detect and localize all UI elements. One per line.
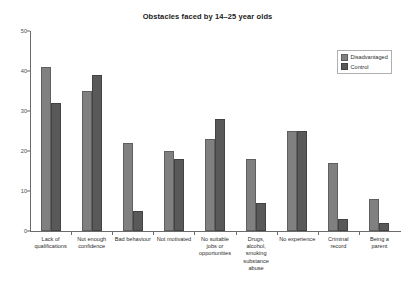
x-axis-category-label: Being a parent bbox=[352, 236, 407, 250]
bar-control bbox=[297, 131, 307, 231]
bar-control bbox=[51, 103, 61, 231]
x-axis-tick-mark bbox=[318, 231, 319, 235]
bar-control bbox=[174, 159, 184, 231]
chart-legend: DisadvantagedControl bbox=[337, 50, 392, 74]
bar-control bbox=[215, 119, 225, 231]
bar-disadvantaged bbox=[328, 163, 338, 231]
legend-label: Control bbox=[351, 64, 369, 70]
x-axis-tick-mark bbox=[277, 231, 278, 235]
y-axis-tick-mark bbox=[27, 31, 30, 32]
x-axis-tick-mark bbox=[236, 231, 237, 235]
bar-control bbox=[379, 223, 389, 231]
x-axis-tick-mark bbox=[112, 231, 113, 235]
x-axis-tick-mark bbox=[153, 231, 154, 235]
bar-control bbox=[133, 211, 143, 231]
bar-disadvantaged bbox=[164, 151, 174, 231]
x-axis-tick-mark bbox=[359, 231, 360, 235]
bar-chart: Obstacles faced by 14–25 year olds 01020… bbox=[0, 0, 415, 292]
legend-item[interactable]: Control bbox=[341, 63, 388, 70]
x-axis-tick-mark bbox=[194, 231, 195, 235]
x-axis-tick-mark bbox=[71, 231, 72, 235]
legend-swatch-icon bbox=[341, 54, 348, 61]
bar-disadvantaged bbox=[246, 159, 256, 231]
bar-group bbox=[194, 119, 235, 231]
bar-disadvantaged bbox=[123, 143, 133, 231]
legend-label: Disadvantaged bbox=[351, 54, 388, 60]
bar-group bbox=[71, 75, 112, 231]
bar-group bbox=[318, 163, 359, 231]
bar-disadvantaged bbox=[205, 139, 215, 231]
bar-control bbox=[92, 75, 102, 231]
bar-group bbox=[112, 143, 153, 231]
chart-title: Obstacles faced by 14–25 year olds bbox=[0, 12, 415, 21]
bar-disadvantaged bbox=[41, 67, 51, 231]
bar-control bbox=[256, 203, 266, 231]
bar-group bbox=[236, 159, 277, 231]
legend-swatch-icon bbox=[341, 63, 348, 70]
x-axis-line bbox=[30, 231, 401, 232]
legend-item[interactable]: Disadvantaged bbox=[341, 54, 388, 61]
bar-control bbox=[338, 219, 348, 231]
bar-disadvantaged bbox=[82, 91, 92, 231]
bar-group bbox=[30, 67, 71, 231]
bar-group bbox=[277, 131, 318, 231]
bar-disadvantaged bbox=[369, 199, 379, 231]
bar-group bbox=[153, 151, 194, 231]
bar-disadvantaged bbox=[287, 131, 297, 231]
bar-group bbox=[359, 199, 400, 231]
